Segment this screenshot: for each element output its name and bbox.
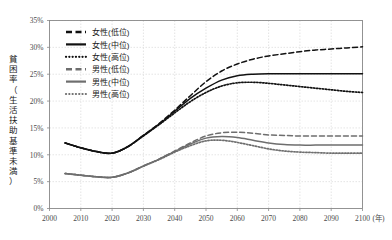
legend-label-5: 男性(中位) [92,77,130,87]
y-tick-label: 5% [34,177,44,186]
y-axis-title-char: 困 [9,64,18,74]
y-tick-label: 30% [30,43,44,52]
y-axis-title-char: 基 [9,136,18,146]
y-axis-title: 貧困率（生活扶助基準未満） [9,54,18,186]
y-tick-label: 15% [30,124,44,133]
y-axis-title-char: （ [9,85,18,95]
y-tick-label: 20% [30,97,44,106]
y-tick-label: 25% [30,70,44,79]
y-axis-title-char: 未 [9,156,18,166]
legend-label-2: 女性(中位) [92,40,130,50]
series-line-5 [65,137,362,178]
x-tick-label: 2100 [355,214,370,223]
x-tick-label: 2090 [324,214,339,223]
x-tick-label: 2010 [73,214,88,223]
y-tick-label: 10% [30,151,44,160]
x-axis-unit-label: (年) [373,213,385,223]
chart-legend: 女性(低位)女性(中位)女性(高位)男性(低位)男性(中位)男性(高位) [66,27,130,99]
y-axis-title-char: 率 [9,74,18,84]
y-axis-title-char: 助 [9,125,18,135]
x-tick-label: 2060 [230,214,245,223]
y-axis-title-char: 扶 [9,115,18,125]
y-axis-title-char: ） [9,176,18,186]
x-axis-unit: (年) [373,213,385,223]
y-axis-tick-labels: 0%5%10%15%20%25%30%35% [30,16,44,213]
x-tick-label: 2040 [167,214,182,223]
legend-label-6: 男性(高位) [92,89,130,99]
y-axis-title-char: 貧 [9,54,18,64]
x-tick-label: 2050 [199,214,214,223]
y-tick-label: 35% [30,16,44,25]
x-tick-label: 2020 [105,214,120,223]
x-tick-label: 2000 [42,214,57,223]
y-axis-title-char: 活 [9,105,18,115]
x-tick-label: 2070 [261,214,276,223]
legend-label-4: 男性(低位) [92,64,130,74]
y-axis-title-char: 準 [9,146,18,156]
legend-label-1: 女性(低位) [92,27,130,37]
legend-label-3: 女性(高位) [92,52,130,62]
y-axis-title-char: 満 [9,166,18,176]
chart-canvas: 2000201020202030204020502060207020802090… [0,0,392,240]
x-tick-label: 2030 [136,214,151,223]
poverty-rate-line-chart: 2000201020202030204020502060207020802090… [0,0,392,240]
x-tick-label: 2080 [292,214,307,223]
y-axis-title-char: 生 [9,95,18,105]
x-axis-tick-labels: 2000201020202030204020502060207020802090… [42,214,370,223]
y-tick-label: 0% [34,204,44,213]
